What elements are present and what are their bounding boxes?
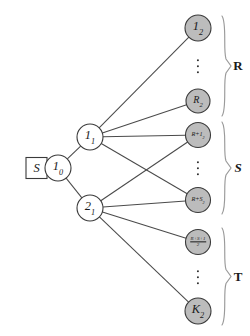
node-K-2[interactable] bbox=[185, 298, 211, 324]
nodes-layer bbox=[0, 0, 250, 336]
diagram-root: S10112112R2R+12R+S2R+S+12K2RST bbox=[0, 0, 250, 336]
node-R-plus-1-2[interactable] bbox=[186, 123, 211, 148]
node-1-1[interactable] bbox=[77, 124, 103, 150]
node-1-2[interactable] bbox=[185, 15, 211, 41]
node-R-plus-S-2[interactable] bbox=[186, 188, 211, 213]
node-1-0[interactable] bbox=[45, 155, 71, 181]
group-brace-S bbox=[222, 122, 231, 214]
node-fraction-R-plus-S-plus-1-over-2[interactable] bbox=[186, 230, 211, 255]
source-box[interactable] bbox=[26, 158, 47, 179]
node-2-1[interactable] bbox=[77, 195, 103, 221]
group-brace-T bbox=[222, 228, 231, 325]
group-brace-R bbox=[222, 16, 231, 116]
node-R-2[interactable] bbox=[186, 89, 210, 113]
